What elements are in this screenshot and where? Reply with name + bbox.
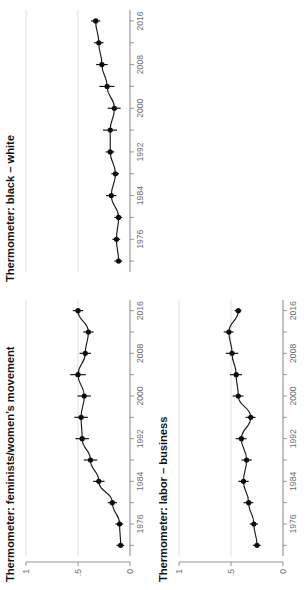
- x-tick-label-1984: 1984: [288, 472, 298, 491]
- data-point-2016[interactable]: [93, 18, 98, 23]
- data-point-2008[interactable]: [83, 351, 88, 356]
- data-point-2012[interactable]: [86, 329, 91, 334]
- multi-panel-figure: Thermometer: feminists/women’s movement …: [0, 0, 307, 590]
- data-point-2004[interactable]: [75, 372, 80, 377]
- data-point-1984[interactable]: [241, 479, 246, 484]
- x-tick-label-1976: 1976: [135, 229, 145, 248]
- panel-title-labor-business: Thermometer: labor – business: [157, 417, 169, 582]
- data-point-2012[interactable]: [96, 40, 101, 45]
- y-tick-label-1: .5: [226, 569, 236, 576]
- x-tick-label-1992: 1992: [135, 429, 145, 448]
- y-tick-label-2: 1: [21, 569, 31, 574]
- data-point-1992[interactable]: [80, 436, 85, 441]
- data-point-2016[interactable]: [75, 308, 80, 313]
- panel-black-white: Thermometer: black – white 1976198419922…: [0, 0, 152, 290]
- data-point-2004[interactable]: [105, 84, 110, 89]
- plot-area-labor-business: 1976198419922000200820160.51: [173, 290, 305, 590]
- data-point-1976[interactable]: [251, 521, 256, 526]
- x-tick-label-2000: 2000: [135, 386, 145, 405]
- data-point-2008[interactable]: [99, 62, 104, 67]
- data-point-1996[interactable]: [108, 127, 113, 132]
- series-trend-line: [96, 21, 119, 261]
- plot-area-feminists: 1976198419922000200820160.51: [20, 290, 152, 590]
- x-tick-label-2008: 2008: [135, 344, 145, 363]
- x-tick-label-1992: 1992: [135, 142, 145, 161]
- data-point-2000[interactable]: [112, 106, 117, 111]
- data-point-1988[interactable]: [244, 457, 249, 462]
- y-tick-label-0: 0: [278, 569, 288, 574]
- x-tick-label-1976: 1976: [135, 514, 145, 533]
- x-tick-label-2000: 2000: [288, 386, 298, 405]
- figure-rotator: Thermometer: feminists/women’s movement …: [0, 0, 307, 590]
- data-point-1996[interactable]: [248, 415, 253, 420]
- y-tick-label-0: 0: [125, 569, 135, 574]
- data-point-1976[interactable]: [117, 521, 122, 526]
- plot-area-black-white: 197619841992200020082016: [20, 0, 152, 290]
- data-point-1984[interactable]: [96, 479, 101, 484]
- series-trend-line: [78, 311, 121, 546]
- data-point-1992[interactable]: [108, 149, 113, 154]
- x-tick-label-2016: 2016: [288, 301, 298, 320]
- data-point-2000[interactable]: [236, 393, 241, 398]
- data-point-2016[interactable]: [236, 308, 241, 313]
- data-point-1980[interactable]: [116, 215, 121, 220]
- x-tick-label-2016: 2016: [135, 11, 145, 30]
- x-tick-label-1984: 1984: [135, 186, 145, 205]
- data-point-2000[interactable]: [82, 393, 87, 398]
- data-point-1972[interactable]: [254, 543, 259, 548]
- panel-title-feminists: Thermometer: feminists/women’s movement: [4, 347, 16, 583]
- y-tick-label-2: 1: [174, 569, 184, 574]
- data-point-1988[interactable]: [88, 457, 93, 462]
- panel-labor-business: Thermometer: labor – business 1976198419…: [155, 290, 307, 590]
- data-point-2004[interactable]: [234, 372, 239, 377]
- data-point-1992[interactable]: [239, 436, 244, 441]
- data-point-1976[interactable]: [114, 237, 119, 242]
- data-point-2008[interactable]: [229, 351, 234, 356]
- series-trend-line: [229, 311, 257, 546]
- x-tick-label-2000: 2000: [135, 98, 145, 117]
- x-tick-label-2008: 2008: [135, 55, 145, 74]
- data-point-2012[interactable]: [226, 329, 231, 334]
- data-point-1980[interactable]: [246, 500, 251, 505]
- panel-title-black-white: Thermometer: black – white: [4, 135, 16, 282]
- x-tick-label-1976: 1976: [288, 514, 298, 533]
- y-tick-label-1: .5: [73, 569, 83, 576]
- data-point-1996[interactable]: [79, 415, 84, 420]
- data-point-1988[interactable]: [113, 171, 118, 176]
- data-point-1972[interactable]: [116, 258, 121, 263]
- data-point-1980[interactable]: [110, 500, 115, 505]
- data-point-1984[interactable]: [109, 193, 114, 198]
- x-tick-label-2008: 2008: [288, 344, 298, 363]
- x-tick-label-1984: 1984: [135, 472, 145, 491]
- data-point-1972[interactable]: [118, 543, 123, 548]
- x-tick-label-1992: 1992: [288, 429, 298, 448]
- panel-feminists: Thermometer: feminists/women’s movement …: [0, 290, 152, 590]
- x-tick-label-2016: 2016: [135, 301, 145, 320]
